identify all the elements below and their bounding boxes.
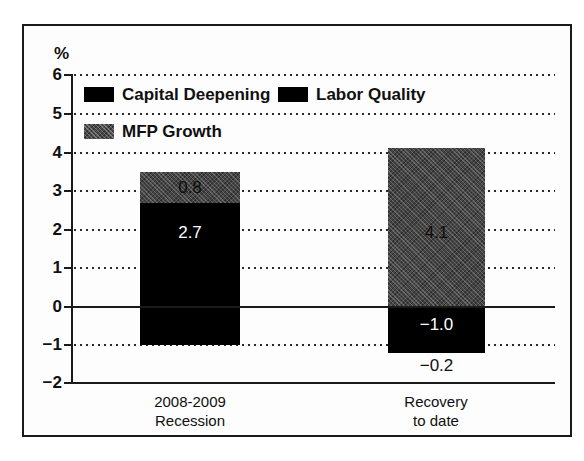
tick-mark-3 [64,190,73,192]
y-axis-unit-label: % [54,44,69,64]
category-label-recovery: Recovery to date [346,392,526,430]
zero-baseline [71,306,555,308]
bar-recession[interactable]: 0.8 2.7 [140,172,240,345]
tick-mark-5 [64,113,73,115]
category-label-recession: 2008-2009 Recession [100,392,280,430]
legend-label-labor-quality: Labor Quality [316,84,426,105]
tick-label-minus-1-wrap: −1 [20,336,62,353]
category-label-recovery-line1: Recovery [346,392,526,411]
tick-label-6-wrap: 6 [20,66,62,83]
category-label-recession-line1: 2008-2009 [100,392,280,411]
tick-label-6: 6 [28,66,62,83]
tick-label-minus-1: −1 [28,336,62,353]
tick-mark-minus-2 [64,382,73,384]
tick-mark-4 [64,152,73,154]
bar-value-recovery-labor: −1.0 [388,316,485,333]
legend-swatch-black-icon [278,87,308,102]
bar-value-recession-capital: 2.7 [140,224,240,241]
tick-mark-2 [64,229,73,231]
bar-value-recession-mfp: 0.8 [140,179,240,196]
bar-recovery[interactable]: 4.1 −1.0 −0.2 [388,148,485,353]
tick-label-5: 5 [28,105,62,122]
tick-label-2: 2 [28,221,62,238]
x-axis-line [71,382,555,384]
category-label-recovery-line2: to date [346,411,526,430]
tick-label-minus-2-wrap: −2 [20,374,62,391]
legend-label-mfp-growth: MFP Growth [122,121,222,142]
tick-label-2-wrap: 2 [20,221,62,238]
bar-value-recovery-capital: −0.2 [388,357,485,374]
tick-label-3: 3 [28,182,62,199]
tick-label-3-wrap: 3 [20,182,62,199]
tick-label-5-wrap: 5 [20,105,62,122]
tick-label-1-wrap: 1 [20,259,62,276]
tick-label-4: 4 [28,144,62,161]
legend-swatch-gray-icon [84,124,114,139]
gridline-5 [74,113,555,115]
tick-label-0-wrap: 0 [20,298,62,315]
tick-label-minus-2: −2 [28,374,62,391]
gridline-6 [74,74,555,76]
legend-label-capital-deepening: Capital Deepening [122,84,270,105]
tick-label-1: 1 [28,259,62,276]
legend-swatch-black-icon [84,87,114,102]
tick-mark-6 [64,74,73,76]
tick-label-4-wrap: 4 [20,144,62,161]
tick-label-0: 0 [28,298,62,315]
tick-mark-1 [64,267,73,269]
chart-plot-area: % 6 5 4 3 2 1 0 −1 −2 0.8 2.7 2008-2009 … [0,0,584,461]
category-label-recession-line2: Recession [100,411,280,430]
bar-value-recovery-mfp: 4.1 [388,224,485,241]
tick-mark-minus-1 [64,344,73,346]
